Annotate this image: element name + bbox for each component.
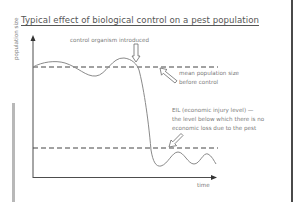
chart-canvas	[0, 0, 301, 202]
y-axis-arrow-icon	[31, 35, 36, 41]
control-introduced-arrow-icon	[132, 44, 140, 62]
control-introduced-label: control organism introduced	[70, 37, 149, 44]
x-axis-label: time	[197, 182, 210, 189]
x-axis-arrow-icon	[211, 175, 217, 180]
eil-label-arrow-icon	[169, 134, 183, 148]
mean-label-line-1: mean population size	[179, 70, 239, 77]
y-axis-label: population size	[13, 18, 20, 60]
figure: Typical effect of biological control on …	[0, 0, 301, 202]
eil-label-line-2: the level below which there is no	[172, 116, 264, 123]
mean-label-arrow-icon	[160, 68, 177, 83]
eil-label-line-3: economic loss due to the pest	[172, 125, 256, 132]
mean-label-line-2: before control	[179, 79, 218, 86]
eil-label-line-1: EIL (economic injury level) —	[172, 107, 253, 114]
